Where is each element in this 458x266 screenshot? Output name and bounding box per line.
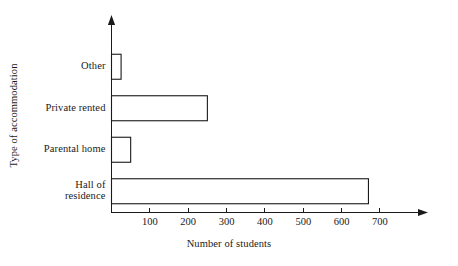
x-tick-label-500: 500 [295,216,311,227]
chart-canvas: 100200300400500600700 [0,0,458,266]
category-label-parental-home: Parental home [18,143,106,155]
bars-group [112,54,369,204]
x-tick-label-700: 700 [372,216,388,227]
bar-other[interactable] [112,54,122,79]
bar-private-rented[interactable] [112,96,208,121]
x-tick-label-200: 200 [180,216,196,227]
y-axis-label-text: Type of accommodation [8,63,19,167]
x-tick-label-600: 600 [334,216,350,227]
category-label-private-rented: Private rented [18,102,106,114]
x-tick-label-300: 300 [219,216,235,227]
x-tick-label-100: 100 [142,216,158,227]
x-axis-label-text: Number of students [0,238,458,249]
bar-parental-home[interactable] [112,137,131,162]
category-label-other: Other [18,60,106,72]
x-axis-tick-labels: 100200300400500600700 [142,216,388,227]
category-label-hall-of-residence: Hall of residence [18,179,106,202]
bar-hall-of-residence[interactable] [112,179,369,204]
bar-chart: 100200300400500600700 Type of accommodat… [0,0,458,266]
x-axis-arrowhead [418,209,428,216]
x-tick-label-400: 400 [257,216,273,227]
y-axis-arrowhead [108,15,115,25]
x-axis-ticks [150,208,380,213]
